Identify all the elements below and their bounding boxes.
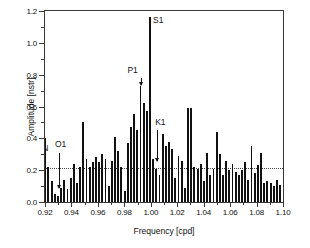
spectrum-bar — [257, 165, 259, 202]
x-tick — [71, 203, 72, 207]
spectrum-bar — [247, 180, 249, 202]
x-tick-label: 1.10 — [276, 208, 291, 217]
plot-frame: NO1P1S1K1 — [44, 10, 284, 203]
spectrum-bar — [174, 178, 176, 202]
peak-label-k1: K1 — [155, 117, 165, 127]
spectrum-bar — [279, 185, 281, 203]
spectrum-bar — [111, 161, 113, 202]
spectrum-bar — [60, 188, 62, 202]
x-tick-label: 0.94 — [64, 208, 79, 217]
peak-arrow-k1 — [157, 130, 158, 160]
spectrum-bar — [222, 175, 224, 202]
y-tick-label: 0.4 — [26, 134, 37, 143]
spectrum-bar — [213, 169, 215, 202]
x-axis-title: Frequency [cpd] — [44, 226, 284, 236]
spectrum-bar — [251, 146, 253, 202]
spectrum-bar — [193, 167, 195, 202]
spectrum-bar — [260, 153, 262, 202]
x-tick-minor — [217, 203, 218, 205]
spectrum-bar — [57, 196, 59, 202]
spectrum-bar — [130, 127, 132, 202]
spectrum-bar — [79, 167, 81, 202]
spectrum-bar — [263, 183, 265, 202]
spectrum-bar — [228, 170, 230, 202]
spectrum-bar — [105, 159, 107, 202]
spectrum-bar — [73, 164, 75, 202]
plot-area: NO1P1S1K1 — [45, 11, 283, 202]
spectrum-bar — [190, 108, 192, 202]
x-tick-label: 0.96 — [90, 208, 105, 217]
spectrum-bar — [54, 194, 56, 202]
x-tick-label: 1.00 — [143, 208, 158, 217]
x-tick-minor — [111, 203, 112, 205]
y-tick-label: 0.8 — [26, 70, 37, 79]
spectrum-bar — [92, 162, 94, 202]
spectrum-bar — [95, 157, 97, 202]
spectrum-bar — [171, 149, 173, 202]
spectrum-bar — [124, 191, 126, 202]
spectrum-bar — [86, 159, 88, 202]
x-tick-label: 0.92 — [38, 208, 53, 217]
x-tick-label: 1.02 — [170, 208, 185, 217]
spectrum-bar — [155, 169, 157, 202]
x-tick-minor — [138, 203, 139, 205]
y-tick-label: 0.0 — [26, 198, 37, 207]
y-tick-label: 1.0 — [26, 38, 37, 47]
x-tick-minor — [85, 203, 86, 205]
x-tick — [230, 203, 231, 207]
spectrum-bar — [117, 151, 119, 202]
spectrum-bar — [162, 134, 164, 202]
spectrum-bar — [206, 153, 208, 202]
spectrum-bar — [254, 173, 256, 202]
spectrum-bar — [101, 154, 103, 202]
spectrum-bar — [159, 175, 161, 202]
spectrum-bar — [232, 164, 234, 202]
spectrum-bar — [200, 164, 202, 202]
spectrum-bar — [266, 181, 268, 202]
spectrum-bar — [187, 108, 189, 202]
x-tick — [283, 203, 284, 207]
spectrum-bar — [133, 114, 135, 202]
spectrum-bar — [143, 103, 145, 202]
spectrum-bar — [216, 132, 218, 202]
spectrum-bar — [244, 162, 246, 202]
peak-label-p1: P1 — [127, 65, 137, 75]
spectrum-bar — [276, 180, 278, 202]
spectrum-bar — [120, 167, 122, 202]
spectrum-bar — [241, 170, 243, 202]
x-tick-label: 1.08 — [249, 208, 264, 217]
spectrum-bar — [235, 172, 237, 202]
x-tick-label: 1.04 — [196, 208, 211, 217]
spectrum-bar — [219, 154, 221, 202]
x-tick-label: 0.98 — [117, 208, 132, 217]
x-tick — [204, 203, 205, 207]
spectrum-bar — [197, 169, 199, 202]
peak-arrow-o1 — [59, 153, 60, 188]
x-tick-minor — [164, 203, 165, 205]
spectrum-bar — [225, 161, 227, 202]
spectrum-bar — [127, 143, 129, 202]
spectrum-bar — [70, 178, 72, 202]
spectrum-bar — [82, 122, 84, 202]
x-tick — [98, 203, 99, 207]
spectrum-figure: Amplitude [nstr] 0.00.20.40.60.81.01.2 N… — [0, 0, 310, 248]
spectrum-bar — [178, 156, 180, 202]
spectrum-bar — [47, 167, 49, 202]
spectrum-bar — [168, 142, 170, 202]
x-tick-minor — [243, 203, 244, 205]
spectrum-bar — [209, 175, 211, 202]
spectrum-bar — [165, 146, 167, 202]
peak-label-o1: O1 — [55, 139, 66, 149]
peak-label-s1: S1 — [153, 15, 163, 25]
spectrum-bar — [238, 175, 240, 202]
x-axis: 0.920.940.960.981.001.021.041.061.081.10 — [44, 203, 284, 225]
spectrum-bar — [203, 181, 205, 202]
spectrum-bar — [149, 17, 151, 202]
y-tick-label: 0.6 — [26, 102, 37, 111]
spectrum-bar — [114, 137, 116, 202]
spectrum-bar — [184, 188, 186, 202]
spectrum-bar — [181, 161, 183, 202]
spectrum-bar — [146, 111, 148, 202]
x-tick-minor — [58, 203, 59, 205]
y-tick-label: 0.2 — [26, 166, 37, 175]
